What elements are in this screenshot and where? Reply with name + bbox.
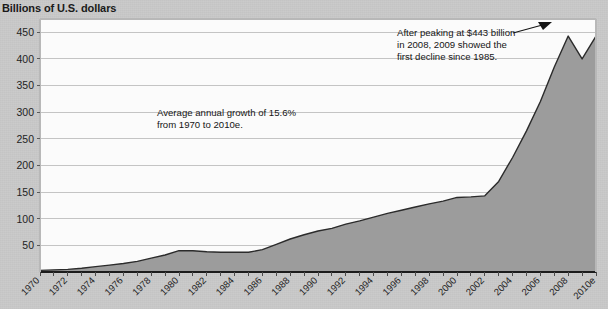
- y-axis-tick-label: 400: [16, 53, 34, 65]
- x-axis-tick-label: 2004: [491, 275, 514, 298]
- x-axis-tick-labels: 1970197219741976197819801982198419861988…: [19, 275, 598, 301]
- annotation-growth-line1: Average annual growth of 15.6%: [157, 107, 296, 118]
- x-axis-tick-label: 1976: [102, 275, 125, 298]
- x-axis-tick-label: 1990: [297, 275, 320, 298]
- y-axis-tick-label: 50: [22, 239, 34, 251]
- x-axis-tick-label: 1982: [185, 275, 208, 298]
- x-axis-tick-label: 2002: [463, 275, 486, 298]
- annotation-growth-line2: from 1970 to 2010e.: [157, 119, 243, 130]
- y-axis-tick-label: 100: [16, 213, 34, 225]
- annotation-peak-line1: After peaking at $443 billion: [397, 27, 515, 38]
- y-axis-tick-label: 250: [16, 133, 34, 145]
- chart-figure: 50100150200250300350400450 1970197219741…: [0, 0, 608, 309]
- x-axis-tick-label: 1970: [19, 275, 42, 298]
- x-axis-tick-label: 2006: [519, 275, 542, 298]
- x-axis-tick-label: 1980: [158, 275, 181, 298]
- x-axis-tick-label: 1992: [324, 275, 347, 298]
- y-axis-tick-label: 150: [16, 186, 34, 198]
- x-axis-tick-label: 2010e: [571, 275, 597, 301]
- x-axis-tick-marks: [40, 272, 596, 276]
- x-axis-tick-label: 1974: [74, 275, 97, 298]
- x-axis-tick-label: 1998: [408, 275, 431, 298]
- y-axis-tick-label: 300: [16, 106, 34, 118]
- x-axis-tick-label: 1988: [269, 275, 292, 298]
- x-axis-tick-label: 2000: [436, 275, 459, 298]
- annotation-peak-line2: in 2008, 2009 showed the: [397, 39, 507, 50]
- x-axis-tick-label: 1972: [46, 275, 69, 298]
- chart-page: Billions of U.S. dollars 501001502002503…: [0, 0, 608, 309]
- y-axis-tick-labels: 50100150200250300350400450: [16, 26, 34, 251]
- x-axis-tick-label: 2008: [547, 275, 570, 298]
- x-axis-tick-label: 1996: [380, 275, 403, 298]
- y-axis-tick-label: 350: [16, 79, 34, 91]
- area-chart: 50100150200250300350400450 1970197219741…: [0, 0, 608, 309]
- y-axis-tick-label: 200: [16, 159, 34, 171]
- x-axis-tick-label: 1986: [241, 275, 264, 298]
- annotation-peak-line3: first decline since 1985.: [397, 51, 497, 62]
- x-axis-tick-label: 1984: [213, 275, 236, 298]
- x-axis-tick-label: 1994: [352, 275, 375, 298]
- y-axis-tick-label: 450: [16, 26, 34, 38]
- x-axis-tick-label: 1978: [130, 275, 153, 298]
